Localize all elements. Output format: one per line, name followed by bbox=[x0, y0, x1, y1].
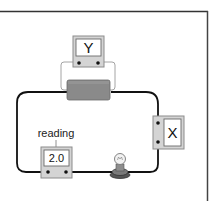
reading-annotation: reading bbox=[38, 127, 75, 139]
meter-y-label: Y bbox=[83, 39, 93, 56]
meter-reading-value: 2.0 bbox=[49, 152, 64, 164]
circuit-diagram: Y X reading 2.0 bbox=[0, 0, 215, 201]
terminal bbox=[77, 61, 81, 65]
meter-y: Y bbox=[73, 36, 104, 67]
terminal bbox=[156, 140, 160, 144]
terminal bbox=[156, 121, 160, 125]
resistor bbox=[67, 80, 110, 100]
terminal bbox=[96, 61, 100, 65]
terminal bbox=[46, 170, 50, 174]
meter-x: X bbox=[153, 116, 184, 149]
bulb-icon bbox=[110, 154, 130, 179]
terminal bbox=[64, 170, 68, 174]
meter-reading: reading 2.0 bbox=[38, 127, 75, 178]
meter-x-label: X bbox=[167, 124, 177, 141]
